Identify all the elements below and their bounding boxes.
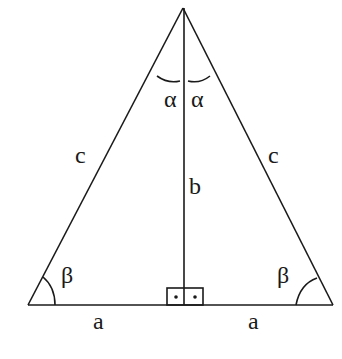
left-base-angle-arc — [43, 277, 55, 305]
left-base-label: a — [93, 308, 104, 334]
right-apex-angle-arc — [188, 76, 210, 82]
left-side-line — [28, 8, 183, 305]
right-base-label: a — [248, 308, 259, 334]
right-side-label: c — [268, 142, 279, 168]
left-base-angle-label: β — [61, 262, 73, 288]
left-apex-angle-label: α — [164, 86, 177, 112]
right-apex-angle-label: α — [191, 86, 204, 112]
right-angle-marker — [167, 288, 203, 305]
left-side-label: c — [75, 142, 86, 168]
right-base-angle-label: β — [277, 262, 289, 288]
altitude-label: b — [189, 173, 201, 199]
right-angle-dot-right — [193, 295, 197, 299]
right-side-line — [183, 8, 333, 305]
right-angle-dot-left — [174, 295, 178, 299]
right-base-angle-arc — [296, 278, 317, 305]
triangle-diagram: α α c c b β β a a — [0, 0, 342, 359]
left-apex-angle-arc — [157, 76, 180, 82]
